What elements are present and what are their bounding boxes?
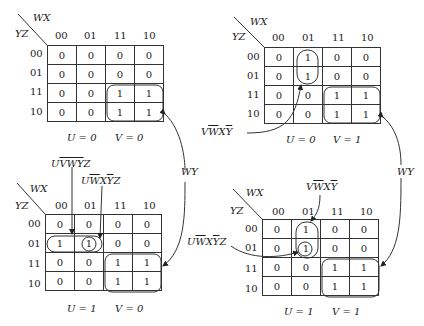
arrow-u-wbar-x-ybar-z	[100, 186, 102, 238]
arrow-u-wbar-x-ybar-z	[231, 246, 298, 257]
arrow-v-wbar-x-ybar	[311, 195, 320, 221]
corner-diagonal	[233, 189, 262, 219]
corner-diagonal	[234, 17, 264, 47]
group-loop-u-wbar-x-ybar-z	[298, 242, 312, 256]
group-loop-wy	[105, 254, 161, 292]
group-loop-v-wbar-x-ybar	[297, 50, 318, 84]
arrow-wy-right	[383, 117, 401, 165]
arrow-wy-left	[163, 182, 185, 266]
group-loop-wy	[322, 259, 379, 297]
corner-diagonal	[18, 14, 47, 45]
group-loop-u-wbar-x-ybar-z	[82, 237, 96, 251]
arrow-v-wbar-x-ybar	[247, 85, 301, 133]
corner-diagonal	[17, 183, 45, 214]
arrow-wy-right	[381, 178, 401, 266]
arrow-wy-left	[165, 114, 185, 170]
diagram-overlay	[0, 0, 424, 326]
group-loop-wy	[324, 87, 380, 123]
group-loop-wy	[107, 85, 163, 121]
